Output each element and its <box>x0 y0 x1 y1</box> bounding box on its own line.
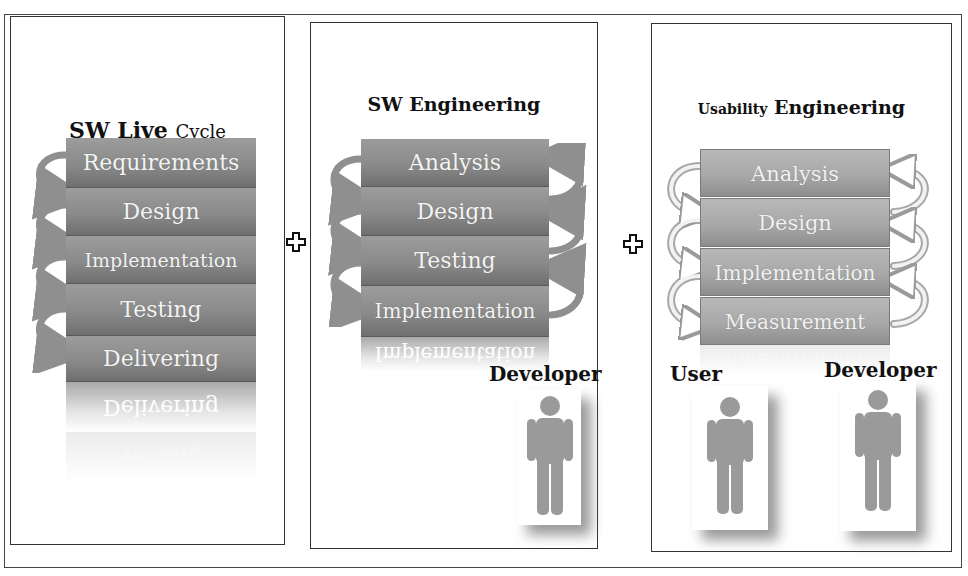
step-stack: Analysis Design Testing Implementation I… <box>361 139 549 379</box>
step-stack: Analysis Design Implementation Measureme… <box>700 149 890 379</box>
step-implementation: Implementation <box>66 236 256 284</box>
step-testing: Testing <box>66 284 256 336</box>
panel-sw-life-cycle: SW Live Cycle Requirements Design Implem… <box>10 16 285 545</box>
curved-arrow-icon <box>656 154 706 344</box>
reflection-testing: Testing <box>66 432 256 482</box>
step-implementation: Implementation <box>361 286 549 337</box>
user-figure <box>692 386 768 530</box>
step-implementation: Implementation <box>700 248 890 296</box>
curved-arrow-icon <box>890 154 940 344</box>
step-measurement: Measurement <box>700 297 890 345</box>
panel-sw-engineering: SW Engineering Analysis Design Testing <box>310 22 598 549</box>
plus-icon <box>285 231 307 253</box>
panel-usability-engineering: Usability Engineering <box>651 23 952 552</box>
developer-figure <box>517 389 581 525</box>
curved-arrow-icon <box>319 147 367 327</box>
developer-figure <box>840 381 916 531</box>
title-rest: Engineering <box>774 96 905 118</box>
plus-icon <box>622 233 644 255</box>
person-icon <box>525 395 575 519</box>
panel-title: Usability Engineering <box>652 96 951 118</box>
role-developer: Developer <box>824 358 937 382</box>
step-design: Design <box>361 187 549 236</box>
curved-arrow-icon <box>547 143 595 333</box>
step-analysis: Analysis <box>361 139 549 187</box>
person-icon <box>706 396 754 516</box>
step-analysis: Analysis <box>700 149 890 197</box>
reflection-delivering: Delivering <box>66 382 256 432</box>
step-design: Design <box>66 188 256 236</box>
panel-title: SW Engineering <box>311 93 597 115</box>
person-icon <box>854 389 902 513</box>
title-small: Usability <box>698 101 768 117</box>
step-delivering: Delivering <box>66 336 256 382</box>
role-user: User <box>670 362 722 386</box>
step-requirements: Requirements <box>66 138 256 188</box>
curved-arrow-icon <box>25 143 71 373</box>
step-testing: Testing <box>361 236 549 286</box>
step-design: Design <box>700 198 890 247</box>
role-developer: Developer <box>489 362 602 386</box>
step-stack: Requirements Design Implementation Testi… <box>66 138 256 518</box>
